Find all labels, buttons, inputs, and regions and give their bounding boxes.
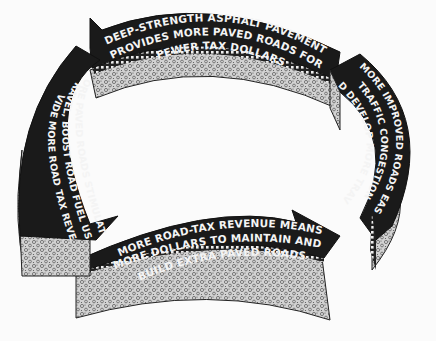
asphalt-cycle-diagram: DEEP-STRENGTH ASPHALT PAVEMENT PROVIDES … — [0, 0, 436, 341]
